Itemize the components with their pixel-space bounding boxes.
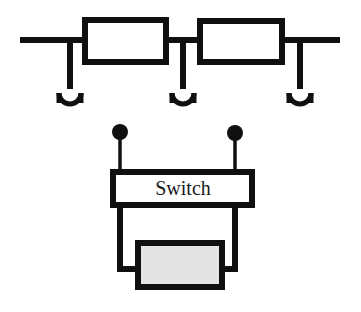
upper-antenna-network <box>20 20 340 104</box>
component-box-left[interactable] <box>85 20 166 62</box>
terminal-dot-right[interactable] <box>227 125 243 141</box>
antenna-fork-right-arc <box>289 93 311 104</box>
antenna-fork-left-arc <box>59 93 81 104</box>
switch-box-label: Switch <box>155 177 211 199</box>
lower-switch-assembly: Switch <box>112 124 252 287</box>
antenna-fork-right <box>289 93 311 104</box>
schematic-canvas: Switch <box>0 0 361 312</box>
component-box-right[interactable] <box>200 21 282 62</box>
antenna-fork-middle <box>172 93 194 104</box>
antenna-fork-middle-arc <box>172 93 194 104</box>
antenna-fork-left <box>59 93 81 104</box>
load-box[interactable] <box>138 243 222 287</box>
terminal-dot-left[interactable] <box>112 124 128 140</box>
schematic-diagram: Switch <box>0 0 361 312</box>
